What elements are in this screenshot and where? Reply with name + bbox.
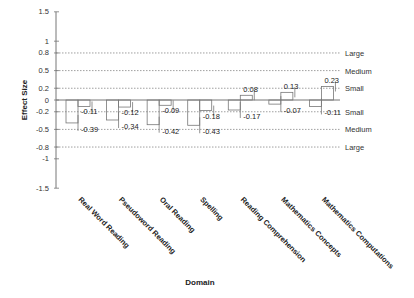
x-axis-labels: Real Word ReadingPseudoword ReadingOral … — [77, 195, 396, 271]
bar-series-1 — [281, 92, 293, 100]
bar-series-1 — [78, 100, 90, 106]
reference-label: Medium — [345, 125, 372, 134]
y-tick-label: -0.5 — [36, 125, 49, 134]
reference-label: Small — [345, 84, 364, 93]
y-tick-label: -0.2 — [36, 107, 49, 116]
category-label: Spelling — [198, 195, 225, 222]
value-label-series-1: -0.09 — [162, 106, 179, 115]
value-label-series-1: 0.13 — [284, 82, 299, 91]
y-tick-label: 0.2 — [39, 84, 49, 93]
reference-label: Medium — [345, 67, 372, 76]
y-tick-label: -1 — [42, 154, 49, 163]
reference-label: Small — [345, 108, 364, 117]
y-axis-title: Effect Size — [20, 79, 29, 120]
value-label-series-1: 0.08 — [243, 85, 258, 94]
bars: -0.11-0.39-0.12-0.34-0.09-0.42-0.18-0.43… — [66, 76, 341, 136]
y-tick-label: 0.5 — [39, 66, 49, 75]
value-label-series-2: -0.17 — [243, 112, 260, 121]
category-label: Oral Reading — [158, 195, 198, 235]
bar-series-2 — [147, 100, 159, 125]
value-label-series-2: -0.34 — [122, 122, 139, 131]
bar-series-2 — [228, 100, 240, 110]
bar-series-2 — [107, 100, 119, 120]
y-tick-label: 0 — [45, 96, 49, 105]
value-label-series-2: -0.11 — [324, 108, 341, 117]
value-label-series-1: -0.11 — [81, 107, 98, 116]
y-tick-label: 1 — [45, 37, 49, 46]
reference-label: Large — [345, 143, 364, 152]
value-label-series-2: -0.39 — [81, 125, 98, 134]
bar-series-1 — [240, 95, 252, 100]
value-label-series-1: -0.18 — [203, 112, 220, 121]
bar-series-1 — [159, 100, 171, 105]
y-tick-label: 1.5 — [39, 7, 49, 16]
category-label: Mathematics Computations — [320, 195, 396, 271]
value-label-series-1: 0.23 — [324, 76, 339, 85]
bar-series-1 — [200, 100, 212, 111]
bar-series-1 — [119, 100, 131, 107]
y-tick-label: -0.8 — [36, 143, 49, 152]
bar-series-2 — [188, 100, 200, 125]
value-label-series-1: -0.12 — [122, 108, 139, 117]
x-axis-title: Domain — [185, 278, 214, 287]
bar-series-2 — [309, 100, 321, 106]
reference-label: Large — [345, 49, 364, 58]
value-label-series-2: -0.07 — [284, 106, 301, 115]
effect-size-chart: LargeMediumSmallSmallMediumLarge 1.510.8… — [0, 0, 414, 298]
category-label: Reading Comprehension — [239, 195, 308, 264]
value-label-series-2: -0.43 — [203, 127, 220, 136]
value-label-series-2: -0.42 — [162, 127, 179, 136]
y-tick-label: 0.8 — [39, 48, 49, 57]
y-tick-label: -1.5 — [36, 184, 49, 193]
bar-series-2 — [269, 100, 281, 104]
